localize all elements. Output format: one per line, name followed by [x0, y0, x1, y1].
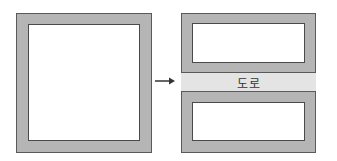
road-strip: 도로 [181, 73, 316, 91]
original-lot-block [16, 13, 152, 153]
lower-lot-interior [192, 102, 305, 141]
upper-lot-interior [192, 23, 305, 63]
right-arrow-icon [154, 76, 176, 86]
lower-lot-block [181, 91, 316, 153]
upper-lot-block [181, 13, 316, 73]
road-label: 도로 [237, 74, 261, 91]
original-lot-interior [28, 24, 140, 141]
